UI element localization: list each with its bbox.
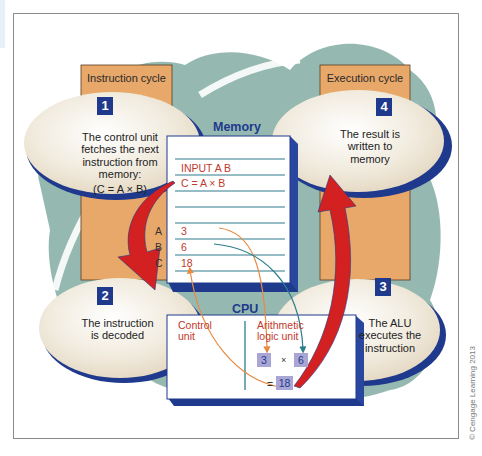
step-4-badge: 4 <box>376 98 392 116</box>
copyright-credit: © Cengage Learning 2013 <box>468 346 477 440</box>
step-2-badge: 2 <box>97 287 113 305</box>
step-3-line: executes the <box>350 329 430 341</box>
step-3-line: The ALU <box>350 317 430 329</box>
step-1-line: memory: <box>70 168 170 180</box>
step-4-text: The result is written to memory <box>330 128 410 165</box>
control-unit-line: unit <box>178 331 212 342</box>
step-2-text: The instruction is decoded <box>75 317 160 342</box>
memory-cell-c: 18 <box>181 257 193 269</box>
step-3-text: The ALU executes the instruction <box>350 317 430 354</box>
step-4-line: memory <box>330 153 410 165</box>
instruction-cycle-label: Instruction cycle <box>81 72 172 84</box>
step-1-line: fetches the next <box>70 143 170 155</box>
execution-cycle-label: Execution cycle <box>320 72 410 84</box>
alu-operator: × <box>281 355 286 365</box>
memory-box-side-edge <box>290 136 298 292</box>
step-2-line: is decoded <box>75 329 160 341</box>
memory-cell-1: INPUT A B <box>181 162 231 174</box>
register-c-label: C <box>155 257 163 269</box>
diagram-graphics <box>0 0 482 456</box>
control-unit-label: Control unit <box>178 320 212 342</box>
cpu-title: CPU <box>232 302 258 316</box>
step-2-line: The instruction <box>75 317 160 329</box>
step-1-badge: 1 <box>97 97 113 115</box>
memory-title: Memory <box>213 120 261 134</box>
step-3-line: instruction <box>350 342 430 354</box>
step-1-line: The control unit <box>70 131 170 143</box>
step-1-formula: (C = A × B) <box>70 183 170 195</box>
register-b-label: B <box>155 241 162 253</box>
alu-equals: = <box>267 378 273 390</box>
alu-label: Arithmetic logic unit <box>257 320 304 342</box>
step-3-badge: 3 <box>375 278 391 296</box>
memory-cell-b: 6 <box>181 241 187 253</box>
step-1-line: instruction from <box>70 156 170 168</box>
memory-cell-a: 3 <box>181 225 187 237</box>
step-1-text: The control unit fetches the next instru… <box>70 131 170 196</box>
alu-operand-b: 6 <box>294 353 308 367</box>
register-a-label: A <box>155 225 162 237</box>
memory-cell-2: C = A × B <box>181 177 225 189</box>
step-4-line: The result is <box>330 128 410 140</box>
alu-line: logic unit <box>257 331 304 342</box>
alu-operand-a: 3 <box>257 353 271 367</box>
step-4-line: written to <box>330 140 410 152</box>
alu-result: 18 <box>276 376 293 390</box>
